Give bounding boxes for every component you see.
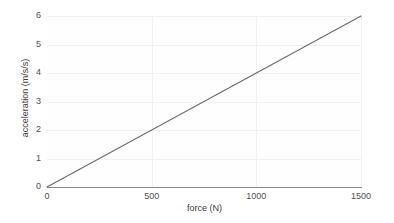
x-tick-label-0: 0 <box>27 191 67 201</box>
chart-figure: 0123456 050010001500 force (N) accelerat… <box>0 0 394 223</box>
x-tick-label-1000: 1000 <box>236 191 276 201</box>
data-series-layer <box>47 16 361 187</box>
line-series-acceleration <box>47 16 361 187</box>
x-tick-label-1500: 1500 <box>341 191 381 201</box>
y-axis-title: acceleration (m/s/s) <box>20 28 30 168</box>
x-axis-spine <box>47 187 362 188</box>
x-tick-label-500: 500 <box>132 191 172 201</box>
x-axis-title: force (N) <box>47 203 362 213</box>
y-tick-label-0: 0 <box>0 182 41 191</box>
gridline-v-1500 <box>361 16 362 187</box>
plot-area <box>47 16 361 187</box>
y-tick-label-6: 6 <box>0 11 41 20</box>
